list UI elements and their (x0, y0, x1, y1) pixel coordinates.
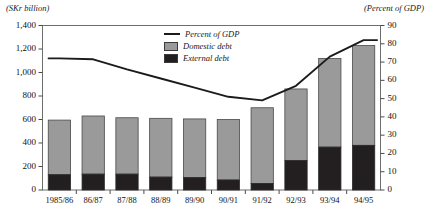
bar-segment-external-debt (352, 145, 374, 190)
bar-segment-external-debt (82, 174, 104, 190)
bar-segment-domestic-debt (48, 120, 70, 175)
right-axis-tick-label: 50 (388, 93, 418, 103)
x-axis-tick-label: 94/95 (347, 195, 381, 205)
bar-segment-domestic-debt (352, 45, 374, 145)
bar-segment-external-debt (285, 161, 307, 190)
legend-item-label: Domestic debt (183, 41, 232, 51)
legend-line-marker-percent-of-gdp (164, 33, 180, 35)
bar-segment-external-debt (150, 177, 172, 190)
x-axis-tick-label: 90/91 (212, 195, 246, 205)
left-axis-tick-label: 0 (2, 184, 36, 194)
right-axis-tick-label: 80 (388, 38, 418, 48)
x-axis-tick-label: 92/93 (279, 195, 313, 205)
x-axis-tick-label: 87/88 (110, 195, 144, 205)
left-axis-tick-label: 1,000 (2, 67, 36, 77)
bar-segment-external-debt (251, 184, 273, 190)
left-axis-tick-label: 400 (2, 137, 36, 147)
right-axis-tick-label: 40 (388, 111, 418, 121)
x-axis-tick-label: 89/90 (178, 195, 212, 205)
bar-segment-domestic-debt (150, 118, 172, 177)
left-axis-tick-label: 1,400 (2, 20, 36, 30)
bar-segment-external-debt (116, 174, 138, 190)
right-axis-tick-label: 60 (388, 74, 418, 84)
x-axis-tick-label: 86/87 (76, 195, 110, 205)
bar-segment-external-debt (319, 147, 341, 190)
bar-segment-external-debt (48, 175, 70, 190)
bar-segment-domestic-debt (116, 118, 138, 174)
right-axis-tick-label: 70 (388, 56, 418, 66)
left-axis-tick-label: 600 (2, 114, 36, 124)
x-axis-tick-label: 1985/86 (43, 195, 77, 205)
left-axis-tick-label: 200 (2, 161, 36, 171)
legend-item: External debt (164, 53, 229, 63)
x-axis-tick-label: 91/92 (245, 195, 279, 205)
legend-item: Domestic debt (164, 41, 232, 51)
bar-segment-external-debt (217, 180, 239, 190)
right-axis-tick-label: 90 (388, 20, 418, 30)
bar-segment-domestic-debt (251, 108, 273, 184)
x-axis-tick-label: 93/94 (313, 195, 347, 205)
bar-segment-domestic-debt (217, 120, 239, 181)
legend-item: Percent of GDP (164, 29, 239, 39)
bar-segment-domestic-debt (285, 89, 307, 161)
right-axis-tick-label: 30 (388, 129, 418, 139)
x-axis-tick-label: 88/89 (144, 195, 178, 205)
legend-item-label: External debt (183, 53, 229, 63)
bar-segment-domestic-debt (183, 119, 205, 178)
right-axis-tick-label: 20 (388, 147, 418, 157)
legend-item-label: Percent of GDP (185, 29, 239, 39)
chart-container: (SKr billion) (Percent of GDP) 020040060… (0, 0, 429, 216)
left-axis-tick-label: 1,200 (2, 43, 36, 53)
right-axis-tick-label: 0 (388, 184, 418, 194)
legend-swatch-external-debt (164, 54, 178, 63)
bar-segment-domestic-debt (319, 58, 341, 147)
left-axis-tick-label: 800 (2, 90, 36, 100)
bar-segment-domestic-debt (82, 116, 104, 174)
legend-swatch-domestic-debt (164, 42, 178, 51)
right-axis-tick-label: 10 (388, 166, 418, 176)
bar-segment-external-debt (183, 178, 205, 190)
